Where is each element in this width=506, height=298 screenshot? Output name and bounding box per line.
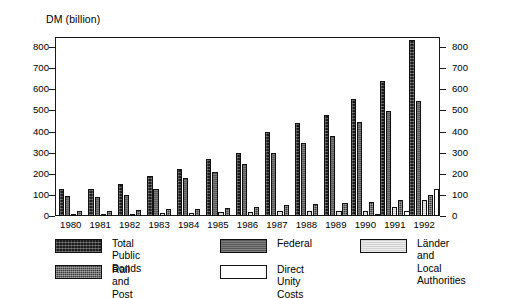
bar-1985-series-0 xyxy=(206,159,211,216)
bar-1990-series-0 xyxy=(351,99,356,216)
y-axis-left: 0100200300400500600700800 xyxy=(20,0,49,298)
bar-1988-series-2 xyxy=(307,211,312,216)
bar-1988-series-3 xyxy=(313,204,318,216)
bar-1991-series-2 xyxy=(392,207,397,216)
bar-1985-series-2 xyxy=(218,212,223,216)
legend-label-federal: Federal xyxy=(277,238,312,250)
bar-1984-series-2 xyxy=(189,213,194,216)
x-tick-label-1984: 1984 xyxy=(173,220,205,230)
y-tick-label-left-700: 700 xyxy=(33,63,49,73)
y-tick-label-right-800: 800 xyxy=(452,42,468,52)
y-tick-label-left-400: 400 xyxy=(33,127,49,137)
x-tick-label-1989: 1989 xyxy=(320,220,352,230)
bar-1987-series-1 xyxy=(271,153,276,216)
legend-swatch-total xyxy=(55,239,102,253)
x-tick-label-1991: 1991 xyxy=(379,220,411,230)
bar-1989-series-3 xyxy=(342,203,347,216)
bar-1990-series-3 xyxy=(369,202,374,216)
bar-1985-series-3 xyxy=(225,208,230,216)
bar-1992-series-1 xyxy=(416,101,421,216)
bar-1988-series-0 xyxy=(295,123,300,216)
bar-1991-series-3 xyxy=(398,200,403,216)
bar-1989-series-2 xyxy=(336,211,341,216)
bar-chart: DM (billion) 0100200300400500600700800 0… xyxy=(0,0,506,298)
chart-legend: Total Public BondsFederalLänder and Loca… xyxy=(55,238,495,290)
bar-1982-series-0 xyxy=(118,184,123,216)
x-tick-label-1980: 1980 xyxy=(55,220,87,230)
bar-1981-series-0 xyxy=(88,189,93,216)
bar-1986-series-1 xyxy=(242,164,247,216)
bar-1983-series-2 xyxy=(160,213,165,216)
x-tick-label-1992: 1992 xyxy=(408,220,440,230)
bar-1985-series-1 xyxy=(212,172,217,216)
y-tick-label-right-0: 0 xyxy=(452,211,457,221)
x-tick-label-1986: 1986 xyxy=(232,220,264,230)
x-tick-label-1985: 1985 xyxy=(202,220,234,230)
bar-1987-series-0 xyxy=(265,132,270,216)
x-tick-label-1981: 1981 xyxy=(84,220,116,230)
y-tick-label-left-500: 500 xyxy=(33,105,49,115)
bar-1982-series-3 xyxy=(136,210,141,216)
bar-1981-series-3 xyxy=(107,211,112,216)
bar-1991-series-0 xyxy=(380,81,385,216)
legend-label-unity: Direct Unity Costs xyxy=(277,264,304,298)
tick-mark-right-100 xyxy=(440,195,446,196)
bar-1981-series-1 xyxy=(95,197,100,216)
bar-1984-series-3 xyxy=(195,209,200,216)
legend-swatch-federal xyxy=(220,239,267,253)
y-tick-label-right-400: 400 xyxy=(452,127,468,137)
bar-1986-series-2 xyxy=(248,212,253,216)
tick-mark-right-0 xyxy=(440,216,446,217)
bar-1982-series-2 xyxy=(130,214,135,216)
x-tick-label-1990: 1990 xyxy=(349,220,381,230)
x-tick-label-1987: 1987 xyxy=(261,220,293,230)
bar-1983-series-3 xyxy=(166,209,171,216)
bar-1988-series-1 xyxy=(301,143,306,216)
legend-swatch-laender xyxy=(360,239,407,253)
bar-1983-series-1 xyxy=(153,189,158,216)
tick-mark-left-0 xyxy=(49,216,55,217)
bar-1989-series-0 xyxy=(324,115,329,216)
bar-1987-series-2 xyxy=(277,211,282,216)
legend-swatch-rail xyxy=(55,265,102,279)
bar-1990-series-1 xyxy=(357,122,362,216)
bar-1984-series-1 xyxy=(183,178,188,216)
bar-1991-series-1 xyxy=(386,111,391,216)
bar-1980-series-1 xyxy=(65,196,70,216)
bar-1984-series-0 xyxy=(177,169,182,216)
plot-area xyxy=(56,38,439,216)
bar-1986-series-3 xyxy=(254,207,259,216)
legend-swatch-unity xyxy=(220,265,267,279)
legend-label-laender: Länder and Local Authorities xyxy=(417,238,466,288)
y-tick-label-left-200: 200 xyxy=(33,169,49,179)
x-tick-label-1982: 1982 xyxy=(114,220,146,230)
bar-1980-series-0 xyxy=(59,189,64,216)
bar-1986-series-0 xyxy=(236,153,241,216)
y-tick-label-right-200: 200 xyxy=(452,169,468,179)
bar-1981-series-2 xyxy=(101,214,106,216)
bar-1992-series-3 xyxy=(428,195,433,216)
tick-mark-right-300 xyxy=(440,153,446,154)
y-tick-label-left-800: 800 xyxy=(33,42,49,52)
legend-label-rail: Rail and Post xyxy=(112,264,133,298)
bar-1980-series-3 xyxy=(77,211,82,216)
tick-mark-right-400 xyxy=(440,132,446,133)
bar-1989-series-1 xyxy=(330,136,335,216)
y-tick-label-right-300: 300 xyxy=(452,148,468,158)
bar-1992-series-2 xyxy=(422,200,427,216)
y-axis-title: DM (billion) xyxy=(46,13,100,25)
bar-1992-series-4 xyxy=(434,189,439,216)
y-tick-label-right-600: 600 xyxy=(452,84,468,94)
tick-mark-right-800 xyxy=(440,47,446,48)
tick-mark-right-600 xyxy=(440,89,446,90)
y-tick-label-left-600: 600 xyxy=(33,84,49,94)
bar-1980-series-2 xyxy=(71,214,76,216)
y-tick-label-left-300: 300 xyxy=(33,148,49,158)
y-tick-label-right-100: 100 xyxy=(452,190,468,200)
y-tick-label-left-100: 100 xyxy=(33,190,49,200)
tick-mark-right-200 xyxy=(440,174,446,175)
x-tick-label-1988: 1988 xyxy=(290,220,322,230)
x-tick-label-1983: 1983 xyxy=(143,220,175,230)
bar-1987-series-3 xyxy=(284,205,289,216)
tick-mark-right-500 xyxy=(440,110,446,111)
